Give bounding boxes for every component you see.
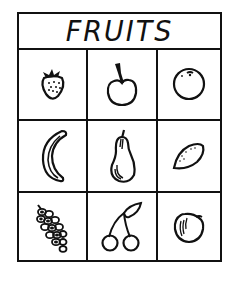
cell-banana (19, 121, 88, 193)
lemon-icon (171, 140, 207, 172)
banana-icon (38, 128, 68, 184)
cell-strawberry (19, 49, 88, 121)
title-text: FRUITS (66, 15, 174, 48)
fruit-grid (19, 49, 220, 260)
cell-orange (158, 49, 220, 121)
cell-apple (88, 49, 158, 121)
cell-grapes (19, 193, 88, 260)
peach-icon (171, 209, 207, 245)
cell-pear (88, 121, 158, 193)
cell-peach (158, 193, 220, 260)
orange-icon (171, 66, 207, 102)
apple-icon (105, 61, 139, 107)
cell-cherries (88, 193, 158, 260)
cherries-icon (99, 201, 145, 253)
cell-lemon (158, 121, 220, 193)
chart-title: FRUITS (19, 14, 220, 50)
fruits-chart: FRUITS (17, 12, 222, 262)
pear-icon (107, 127, 137, 185)
grapes-icon (33, 201, 73, 253)
strawberry-icon (38, 66, 68, 102)
